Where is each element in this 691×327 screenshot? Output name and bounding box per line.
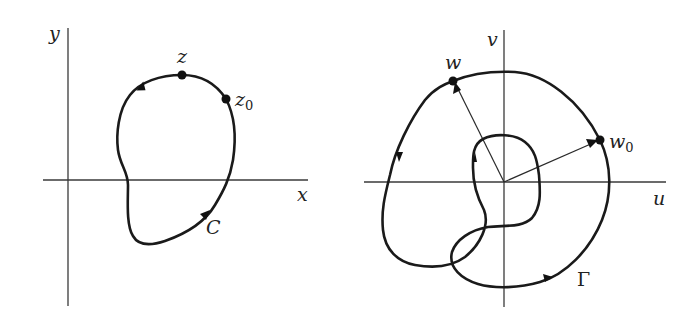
diagram-canvas: y x z z0 C v u w [0,0,691,327]
z-plane: y x z z0 C [43,22,308,306]
y-axis-label: y [48,22,60,44]
w-plane: v u w w0 Γ [364,28,666,307]
label-w0: w0 [609,130,634,155]
u-axis-label: u [653,187,665,209]
vector-to-w0 [504,143,593,182]
label-z: z [176,45,188,67]
label-w: w [445,51,461,73]
curve-Gamma [382,72,609,288]
curve-label-C: C [206,216,221,238]
point-w [449,77,458,86]
arrow-icon [396,152,403,162]
v-axis-label: v [487,28,498,50]
curve-label-Gamma: Γ [577,268,590,290]
point-z [178,71,187,80]
x-axis-label: x [297,183,308,205]
diagram-svg: y x z z0 C v u w [0,0,691,327]
label-z0: z0 [234,88,253,113]
point-w0 [596,136,605,145]
point-z0 [222,95,231,104]
